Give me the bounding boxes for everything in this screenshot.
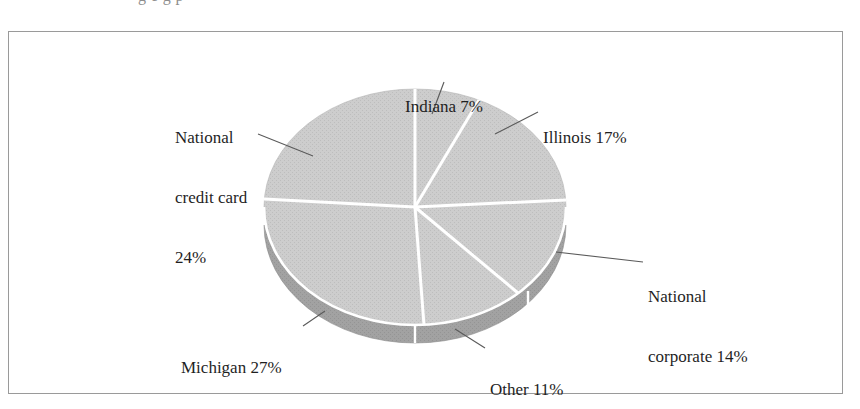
slice-label-national-corporate-line2: corporate 14% (648, 347, 748, 367)
slice-label-illinois-line1: Illinois 17% (543, 128, 627, 148)
slice-label-national-credit-card: National credit card 24% (175, 88, 247, 308)
slice-label-national-credit-card-line3: 24% (175, 248, 247, 268)
slice-label-indiana: Indiana 7% (405, 57, 483, 157)
leader-line-michigan (303, 311, 325, 326)
slice-label-indiana-line1: Indiana 7% (405, 97, 483, 117)
slice-label-michigan: Michigan 27% (181, 318, 282, 409)
leader-line-national-corporate (556, 252, 643, 262)
slice-label-illinois: Illinois 17% (543, 88, 627, 188)
slice-label-national-credit-card-line1: National (175, 128, 247, 148)
slice-label-national-corporate-line1: National (648, 287, 748, 307)
slice-label-national-credit-card-line2: credit card (175, 188, 247, 208)
slice-label-other: Other 11% (490, 340, 564, 409)
slice-label-national-corporate: National corporate 14% (648, 247, 748, 407)
slice-label-other-line1: Other 11% (490, 380, 564, 400)
slice-label-michigan-line1: Michigan 27% (181, 358, 282, 378)
pie-chart: Indiana 7% Illinois 17% National corpora… (0, 0, 860, 409)
